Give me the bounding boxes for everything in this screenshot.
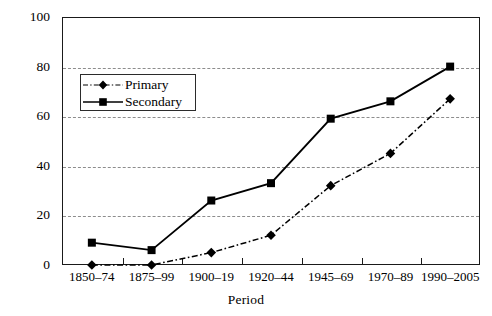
- x-axis-tick-label: 1850–74: [69, 270, 115, 283]
- series-layer: [62, 17, 480, 265]
- data-point-secondary: [207, 197, 215, 205]
- legend: Primary Secondary: [80, 74, 196, 111]
- x-axis-tick-label: 1945–69: [308, 270, 354, 283]
- data-point-primary: [206, 248, 216, 258]
- x-axis-tick-label: 1900–19: [189, 270, 235, 283]
- legend-sample-primary-icon: [81, 77, 125, 93]
- x-axis-tick-label: 1875–99: [129, 270, 175, 283]
- y-axis-tick-label: 100: [6, 10, 50, 24]
- legend-item-secondary: Secondary: [81, 93, 195, 110]
- x-axis-title: Period: [0, 292, 492, 308]
- data-point-primary: [266, 230, 276, 240]
- x-axis-tick-label: 1990–2005: [421, 270, 480, 283]
- data-point-secondary: [386, 97, 394, 105]
- y-axis-tick-label: 20: [6, 209, 50, 223]
- data-point-secondary: [446, 63, 454, 71]
- data-point-secondary: [88, 239, 96, 247]
- x-axis-tick-label: 1970–89: [368, 270, 414, 283]
- data-point-secondary: [267, 179, 275, 187]
- y-axis-tick-labels: 020406080100: [0, 0, 56, 248]
- line-chart: Percent 020406080100 1850–741875–991900–…: [0, 0, 492, 316]
- y-axis-tick-label: 0: [6, 258, 50, 272]
- y-axis-tick-label: 40: [6, 159, 50, 173]
- legend-sample-secondary-icon: [81, 94, 125, 110]
- data-point-secondary: [327, 115, 335, 123]
- legend-label-secondary: Secondary: [125, 95, 182, 109]
- y-axis-tick-label: 80: [6, 60, 50, 74]
- y-axis-tick-label: 60: [6, 109, 50, 123]
- legend-item-primary: Primary: [81, 76, 195, 93]
- data-point-secondary: [148, 246, 156, 254]
- legend-label-primary: Primary: [125, 78, 169, 92]
- x-axis-tick-label: 1920–44: [248, 270, 294, 283]
